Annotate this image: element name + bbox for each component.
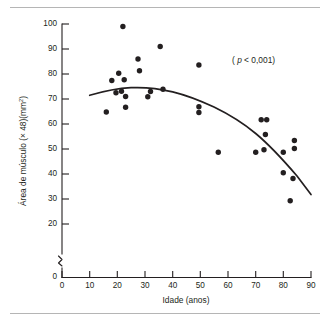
- figure-container: 100 90 80 70 60 50 40 30 20 0 0: [0, 0, 330, 321]
- data-point: [123, 94, 128, 99]
- x-ticklabel-30: 30: [140, 281, 150, 290]
- x-ticklabel-90: 90: [306, 281, 316, 290]
- x-axis-title: Idade (anos): [162, 295, 209, 305]
- data-point: [158, 44, 163, 49]
- data-point: [137, 68, 142, 73]
- y-ticklabel-30: 30: [48, 194, 58, 203]
- x-axis-ticks: [62, 271, 311, 278]
- data-point: [216, 150, 221, 155]
- scatter-plot: 100 90 80 70 60 50 40 30 20 0 0: [0, 0, 330, 321]
- x-ticklabel-40: 40: [168, 281, 178, 290]
- x-ticklabel-60: 60: [223, 281, 233, 290]
- y-ticklabel-80: 80: [48, 69, 58, 78]
- p-value-suffix: < 0,001): [242, 55, 276, 65]
- y-axis-ticks: [62, 24, 69, 224]
- data-point: [290, 176, 295, 181]
- y-axis-break-mark: [59, 256, 63, 266]
- y-ticklabel-50: 50: [48, 144, 58, 153]
- data-point: [281, 150, 286, 155]
- data-point: [263, 132, 268, 137]
- y-ticklabel-100: 100: [43, 19, 57, 28]
- data-point: [196, 104, 201, 109]
- y-ticklabel-90: 90: [48, 44, 58, 53]
- y-axis-tick-labels: 100 90 80 70 60 50 40 30 20 0: [43, 19, 57, 281]
- y-ticklabel-20: 20: [48, 219, 58, 228]
- x-ticklabel-80: 80: [279, 281, 289, 290]
- y-axis-title: Área de músculo (× 48)(mm2): [18, 96, 28, 206]
- data-point: [292, 138, 297, 143]
- x-ticklabel-50: 50: [196, 281, 206, 290]
- data-point: [261, 147, 266, 152]
- y-ticklabel-70: 70: [48, 94, 58, 103]
- data-point: [281, 170, 286, 175]
- data-point: [145, 94, 150, 99]
- y-ticklabel-0: 0: [52, 272, 57, 281]
- y-ticklabel-40: 40: [48, 169, 58, 178]
- y-axis-title-group: Área de músculo (× 48)(mm2): [18, 96, 28, 206]
- x-ticklabel-20: 20: [113, 281, 123, 290]
- data-point: [122, 77, 127, 82]
- data-point: [113, 90, 118, 95]
- y-ticklabel-60: 60: [48, 119, 58, 128]
- x-ticklabel-0: 0: [60, 281, 65, 290]
- data-point: [253, 150, 258, 155]
- data-point: [135, 56, 140, 61]
- data-point: [104, 109, 109, 114]
- data-point: [123, 105, 128, 110]
- data-point: [109, 78, 114, 83]
- x-axis-tick-labels: 0 10 20 30 40 50 60 70 80 90: [60, 281, 316, 290]
- data-point: [120, 24, 125, 29]
- data-point: [196, 110, 201, 115]
- data-point: [264, 117, 269, 122]
- regression-fit-curve: [90, 88, 311, 195]
- y-axis-title-close: ): [18, 96, 28, 99]
- data-point: [119, 89, 124, 94]
- data-point: [292, 146, 297, 151]
- data-point: [196, 62, 201, 67]
- p-value-annotation: ( p < 0,001): [232, 55, 275, 65]
- data-point: [148, 89, 153, 94]
- scatter-points: [104, 24, 297, 204]
- x-ticklabel-10: 10: [85, 281, 95, 290]
- x-ticklabel-70: 70: [251, 281, 261, 290]
- data-point: [259, 117, 264, 122]
- data-point: [116, 71, 121, 76]
- y-axis-title-main: Área de músculo (× 48)(mm: [18, 102, 28, 206]
- data-point: [160, 87, 165, 92]
- data-point: [288, 198, 293, 203]
